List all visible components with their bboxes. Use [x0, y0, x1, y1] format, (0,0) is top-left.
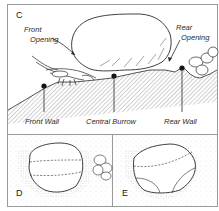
rear-opening-label-line2: Opening: [181, 33, 210, 42]
panel-d-boulder: [29, 143, 83, 192]
front-opening-label-line1: Front: [24, 25, 42, 34]
front-wall-label: Front Wall: [25, 117, 59, 126]
panel-d-letter: D: [16, 188, 23, 198]
rear-wall-label: Rear Wall: [164, 117, 197, 126]
panel-e: E: [113, 135, 217, 206]
panel-e-letter: E: [122, 188, 128, 198]
central-burrow-label: Central Burrow: [86, 117, 137, 126]
front-opening-label-line2: Opening: [30, 35, 59, 44]
rear-rocks: [189, 47, 218, 75]
rear-opening-label-line1: Rear: [176, 23, 193, 32]
panel-c: C: [8, 10, 218, 126]
boulder: [72, 14, 172, 71]
panel-d: D: [8, 135, 112, 206]
burrow-diagram: C: [0, 0, 219, 211]
panel-c-letter: C: [16, 10, 23, 20]
panel-e-boulder: [133, 144, 195, 193]
